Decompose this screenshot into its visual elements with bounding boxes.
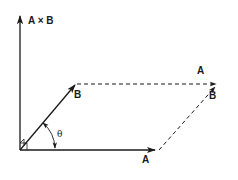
vector-b-translated — [159, 87, 215, 150]
vector-b-translated-label: B — [209, 90, 216, 101]
vector-b — [20, 85, 75, 150]
vector-a-translated-label: A — [197, 65, 204, 76]
cross-product-label: A × B — [28, 15, 53, 26]
cross-product-diagram: A × B A B A B θ — [0, 0, 238, 180]
angle-label: θ — [57, 129, 62, 139]
vector-a-label: A — [142, 154, 149, 165]
vector-b-label: B — [74, 89, 81, 100]
angle-arc — [43, 123, 55, 148]
